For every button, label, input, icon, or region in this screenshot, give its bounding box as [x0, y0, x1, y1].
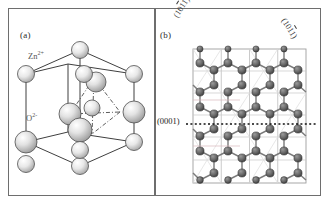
figure-root: (a) — [0, 0, 329, 204]
lattice-projection — [0, 0, 329, 204]
